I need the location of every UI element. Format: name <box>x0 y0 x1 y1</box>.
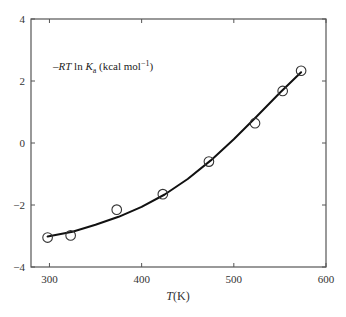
y-quantity-annotation: –RT ln Ka (kcal mol−1) <box>52 59 153 75</box>
axes-box <box>31 19 326 267</box>
chart: 300400500600−4−2024 –RT ln Ka (kcal mol−… <box>0 0 346 317</box>
y-tick-label: 2 <box>20 75 26 87</box>
fit-curve <box>48 72 302 236</box>
y-tick-label: −2 <box>13 199 25 211</box>
data-point-marker <box>112 205 122 215</box>
y-tick-label: 0 <box>20 137 26 149</box>
axis-ticks: 300400500600−4−2024 <box>13 13 334 285</box>
y-tick-label: −4 <box>13 261 25 273</box>
x-tick-label: 400 <box>133 273 150 285</box>
x-axis-title: T(K) <box>166 289 189 303</box>
y-tick-label: 4 <box>20 13 26 25</box>
data-point-marker <box>296 66 306 76</box>
x-tick-label: 600 <box>318 273 335 285</box>
plot-frame <box>31 19 326 267</box>
data-points <box>43 66 306 242</box>
x-tick-label: 300 <box>41 273 58 285</box>
x-tick-label: 500 <box>226 273 243 285</box>
data-point-marker <box>250 118 260 128</box>
